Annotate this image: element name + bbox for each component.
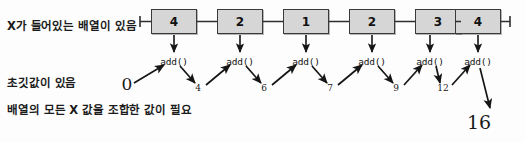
operation-label-0: add() <box>160 56 188 67</box>
initial-value-annotation-label: 초깃값이 있음 <box>7 74 76 90</box>
operation-label-2: add() <box>292 56 320 67</box>
array-cell-5: 4 <box>455 9 501 34</box>
accumulator-value-4: 9 <box>393 83 399 93</box>
array-cell-value: 1 <box>284 16 328 28</box>
array-cell-value: 2 <box>350 16 394 28</box>
combine-annotation-label: 배열의 모든 X 값을 조합한 값이 필요 <box>7 101 192 117</box>
operation-label-3: add() <box>358 56 386 67</box>
cell-to-operation-arrows <box>174 35 478 52</box>
array-cell-value: 4 <box>456 16 500 28</box>
array-cell-3: 2 <box>349 9 395 34</box>
array-cell-value: 4 <box>152 16 196 28</box>
operation-label-1: add() <box>226 56 254 67</box>
accumulator-value-1: 4 <box>195 83 201 93</box>
diagram-canvas: X가 들어있는 배열이 있음 초깃값이 있음 배열의 모든 X 값을 조합한 값… <box>0 0 525 142</box>
array-cell-value: 2 <box>218 16 262 28</box>
array-cell-0: 4 <box>151 9 197 34</box>
operation-label-5: add() <box>464 56 492 67</box>
operation-label-4: add() <box>416 56 444 67</box>
accumulator-final-value: 16 <box>467 111 491 133</box>
accumulator-value-5: 12 <box>437 83 448 93</box>
array-annotation-label: X가 들어있는 배열이 있음 <box>7 17 136 33</box>
accumulator-initial-value: 0 <box>122 74 133 94</box>
array-cell-1: 2 <box>217 9 263 34</box>
accumulator-value-3: 7 <box>327 83 333 93</box>
array-cell-2: 1 <box>283 9 329 34</box>
array-cell-value: 3 <box>416 16 460 28</box>
accumulator-value-2: 6 <box>261 83 267 93</box>
